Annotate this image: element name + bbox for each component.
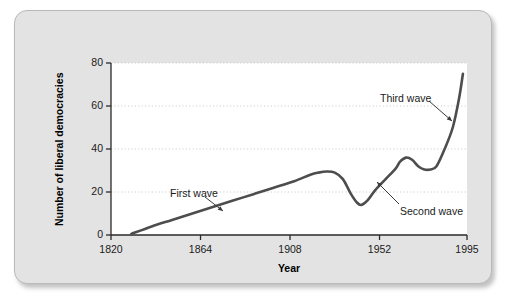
chart-figure: 020406080 18201864190819521995 First wav… <box>0 0 520 302</box>
y-tick-label: 0 <box>75 228 103 240</box>
y-tick-label: 60 <box>75 99 103 111</box>
annotation-label: Second wave <box>400 205 463 217</box>
y-tick-label: 80 <box>75 56 103 68</box>
x-tick-label: 1864 <box>176 243 226 255</box>
x-tick-label: 1952 <box>355 243 405 255</box>
x-axis-ticks <box>111 235 467 240</box>
y-tick-label: 40 <box>75 142 103 154</box>
x-axis-title: Year <box>249 262 329 274</box>
x-tick-label: 1908 <box>265 243 315 255</box>
chart-panel: 020406080 18201864190819521995 First wav… <box>14 10 492 284</box>
x-tick-label: 1820 <box>86 243 136 255</box>
y-tick-label: 20 <box>75 185 103 197</box>
x-tick-label: 1995 <box>442 243 492 255</box>
annotation-label: Third wave <box>380 92 431 104</box>
y-axis-ticks <box>106 63 111 235</box>
annotation-label: First wave <box>170 187 218 199</box>
y-axis-title: Number of liberal democracies <box>53 73 65 226</box>
